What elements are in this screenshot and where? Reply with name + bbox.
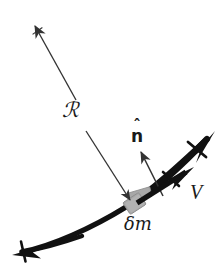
unit-normal-label: ˆn (131, 128, 143, 145)
position-vector-arrow (35, 26, 130, 200)
velocity-label: V (190, 182, 202, 202)
physics-diagram: ℛ ˆn V δm (0, 0, 224, 268)
circumflex-accent-icon: ˆ (133, 119, 141, 134)
velocity-arrow (137, 167, 194, 203)
string-left-arrowhead (12, 242, 42, 262)
mass-element-label: δm (124, 215, 152, 233)
position-vector-label: ℛ (62, 100, 79, 121)
string-curve (22, 139, 207, 252)
diagram-canvas (0, 0, 224, 268)
